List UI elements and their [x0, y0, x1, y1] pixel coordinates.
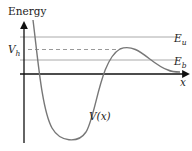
y-axis-label: Energy — [8, 5, 46, 17]
vh-label: Vh — [8, 43, 21, 58]
eu-label: Eu — [173, 32, 187, 47]
potential-diagram: Energy Vh Eu Eb x V(x) — [0, 0, 192, 151]
eb-label: Eb — [173, 55, 187, 70]
curve-label: V(x) — [89, 110, 111, 122]
x-axis-label: x — [180, 76, 186, 88]
